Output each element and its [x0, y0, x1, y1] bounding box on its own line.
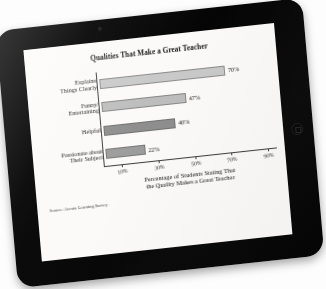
x-tick-label: 50% [190, 159, 201, 167]
x-tick [195, 156, 196, 159]
category-label: Funny/ Entertaining [36, 101, 102, 121]
bar-value-label: 22% [148, 145, 160, 153]
scene: Qualities That Make a Great Teacher Expl… [0, 0, 326, 289]
category-label: Helpful [39, 127, 104, 141]
bar-value-label: 47% [189, 93, 201, 101]
bars-container: Explains Things Clearly 70% Funny/ [34, 54, 277, 173]
x-tick [268, 148, 269, 151]
x-tick [158, 160, 159, 163]
x-tick [231, 152, 232, 155]
plot-area: Explains Things Clearly 70% Funny/ [34, 54, 284, 253]
bar-passionate-about-their-subject[interactable] [105, 145, 145, 159]
bar-helpful[interactable] [103, 118, 175, 136]
tablet-device: Qualities That Make a Great Teacher Expl… [0, 0, 324, 288]
tablet-screen[interactable]: Qualities That Make a Great Teacher Expl… [23, 23, 292, 261]
x-axis-title: Percentage of Students Stating That the … [101, 161, 279, 195]
category-label: Explains Things Clearly [34, 77, 100, 97]
camera-dot-icon [97, 27, 101, 31]
x-tick-label: 30% [154, 163, 165, 171]
x-tick-label: 90% [263, 151, 274, 159]
bar-funny-entertaining[interactable] [101, 93, 186, 112]
bar-value-label: 40% [178, 118, 190, 126]
home-button-square-icon [295, 127, 301, 134]
x-tick-label: 10% [117, 167, 128, 175]
category-label: Passionate about Their Subject [41, 148, 107, 168]
bar-value-label: 70% [228, 65, 240, 73]
x-tick-label: 70% [227, 155, 238, 163]
source-note: Source: Aventa Learning Survey [49, 202, 108, 213]
category-label-line: Helpful [39, 128, 101, 141]
x-tick [122, 164, 123, 167]
chart-page: Qualities That Make a Great Teacher Expl… [23, 23, 292, 261]
